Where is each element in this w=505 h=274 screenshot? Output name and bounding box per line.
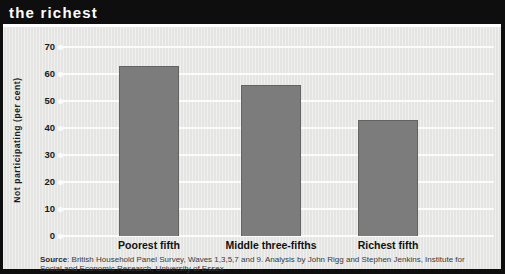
x-category-label: Richest fifth — [308, 239, 468, 251]
bar-3 — [358, 120, 418, 236]
bar-series — [62, 47, 496, 236]
chart-panel: Not participating (per cent) 01020304050… — [3, 24, 501, 269]
y-tick-label: 0 — [3, 231, 55, 241]
y-tick-label: 40 — [3, 123, 55, 133]
bar-1 — [119, 66, 179, 236]
source-label: Source — [40, 255, 67, 264]
y-tick-label: 50 — [3, 96, 55, 106]
figure-title: the richest — [9, 4, 98, 21]
y-tick-label: 60 — [3, 69, 55, 79]
y-tick-label: 10 — [3, 204, 55, 214]
x-axis-labels: Poorest fifthMiddle three-fifthsRichest … — [62, 239, 496, 253]
y-axis-ticks: 010203040506070 — [3, 47, 55, 236]
plot-area — [62, 47, 496, 236]
y-tick-label: 70 — [3, 42, 55, 52]
source-text: : British Household Panel Survey, Waves … — [40, 255, 465, 273]
y-tick-label: 30 — [3, 150, 55, 160]
source-note: Source: British Household Panel Survey, … — [40, 255, 488, 273]
y-tick-label: 20 — [3, 177, 55, 187]
figure-frame: the richest Not participating (per cent)… — [0, 0, 505, 274]
figure-header: the richest — [0, 0, 505, 24]
bar-2 — [241, 85, 301, 236]
